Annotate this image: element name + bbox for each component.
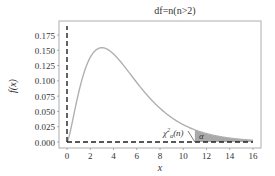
- chi-square-chart: df=n(n>2) 0.0000.0250.0500.0750.1000.125…: [0, 0, 275, 176]
- y-axis: 0.0000.0250.0500.0750.1000.1250.1500.175: [35, 31, 59, 148]
- chart-title: df=n(n>2): [154, 5, 195, 17]
- x-tick-label: 12: [202, 151, 211, 161]
- x-tick-label: 10: [179, 151, 189, 161]
- y-tick-label: 0.125: [35, 61, 56, 71]
- y-tick-label: 0.025: [35, 122, 56, 132]
- pdf-curve: [67, 48, 253, 142]
- x-tick-label: 16: [249, 151, 259, 161]
- y-axis-label: f(x): [7, 78, 19, 93]
- y-tick-label: 0.175: [35, 31, 56, 41]
- annotation-pointer: [188, 131, 195, 142]
- x-axis-label: x: [157, 162, 163, 173]
- y-tick-label: 0.075: [35, 92, 56, 102]
- x-tick-label: 8: [158, 151, 163, 161]
- y-tick-label: 0.000: [35, 138, 56, 148]
- x-tick-label: 2: [88, 151, 93, 161]
- x-tick-label: 0: [65, 151, 70, 161]
- plot-frame: [59, 21, 261, 148]
- x-tick-label: 14: [225, 151, 235, 161]
- x-tick-label: 6: [135, 151, 140, 161]
- y-tick-label: 0.100: [35, 76, 56, 86]
- alpha-label: α: [199, 131, 204, 141]
- y-tick-label: 0.050: [35, 107, 56, 117]
- x-axis: 0246810121416: [65, 148, 258, 161]
- x-tick-label: 4: [111, 151, 116, 161]
- critical-value-label: χ2α(n): [162, 127, 184, 139]
- y-tick-label: 0.150: [35, 46, 56, 56]
